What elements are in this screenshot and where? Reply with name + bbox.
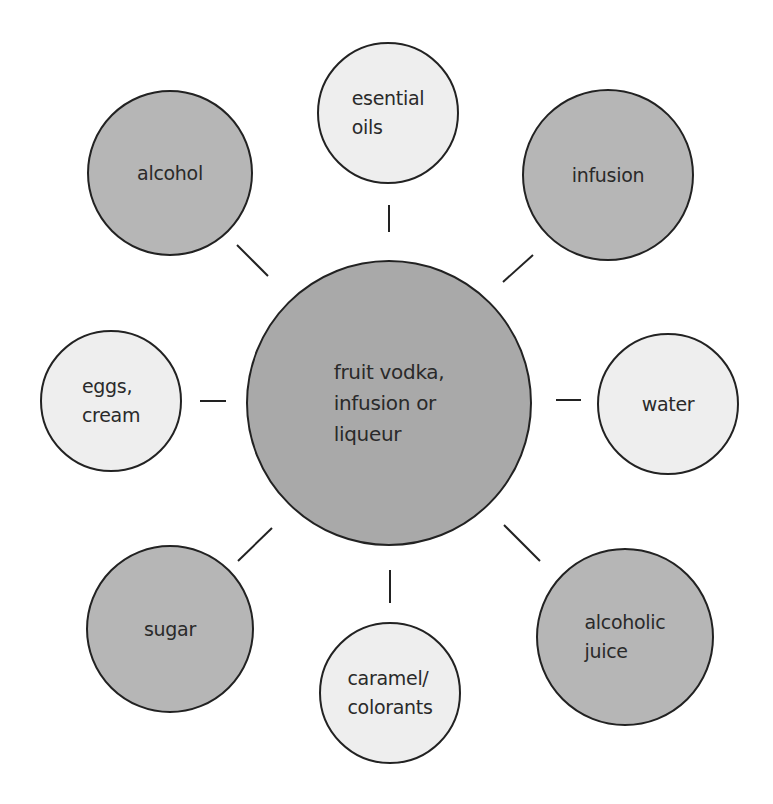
node-alcohol: alcohol <box>87 90 253 256</box>
node-label-water: water <box>642 390 695 419</box>
node-label-alcohol: alcohol <box>137 159 203 188</box>
connector-line-sugar <box>238 528 272 561</box>
connector-line-infusion <box>503 255 533 282</box>
center-node-fruit-vodka: fruit vodka, infusion or liqueur <box>246 260 532 546</box>
node-sugar: sugar <box>86 545 254 713</box>
node-label-infusion: infusion <box>572 161 645 190</box>
node-alcoholic-juice: alcoholic juice <box>536 548 714 726</box>
node-water: water <box>597 333 739 475</box>
node-caramel-colorants: caramel/ colorants <box>319 622 461 764</box>
node-esential-oils: esential oils <box>317 42 459 184</box>
connector-line-alcohol <box>237 245 268 276</box>
connector-line-alcoholic-juice <box>504 525 540 561</box>
ingredient-diagram: fruit vodka, infusion or liqueur esentia… <box>0 0 773 804</box>
node-label-alcoholic-juice: alcoholic juice <box>585 608 666 666</box>
node-label-esential-oils: esential oils <box>352 84 425 142</box>
node-label-caramel-colorants: caramel/ colorants <box>347 664 432 722</box>
node-eggs-cream: eggs, cream <box>40 330 182 472</box>
node-label-sugar: sugar <box>144 615 196 644</box>
node-infusion: infusion <box>522 89 694 261</box>
center-node-label: fruit vodka, infusion or liqueur <box>334 357 445 450</box>
node-label-eggs-cream: eggs, cream <box>82 372 140 430</box>
